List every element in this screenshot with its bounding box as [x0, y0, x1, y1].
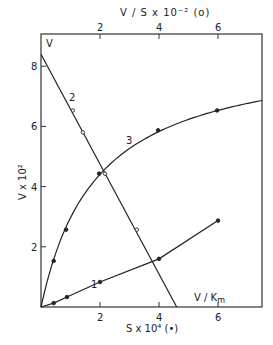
data-point-1 — [98, 280, 102, 284]
y-tick-label: 8 — [31, 61, 37, 72]
v-intercept-label: V — [46, 38, 53, 49]
data-point-3 — [97, 172, 101, 176]
curve-1 — [41, 221, 218, 307]
plot-frame — [41, 34, 262, 307]
data-point-1 — [65, 295, 69, 299]
y-tick-label: 2 — [31, 242, 37, 253]
y-axis-title: V x 10² — [17, 164, 28, 200]
data-point-2 — [135, 228, 138, 231]
y-tick-label: 6 — [31, 121, 37, 132]
curve-2 — [41, 54, 177, 307]
curve-3 — [41, 101, 262, 308]
curve-1-label: 1 — [91, 279, 97, 290]
data-point-3 — [215, 109, 219, 113]
data-point-1 — [52, 301, 56, 305]
top-axis-title: V / S x 10⁻² (o) — [120, 7, 210, 18]
top-tick-label: 4 — [156, 22, 162, 33]
x-tick-label: 2 — [97, 312, 103, 323]
kinetics-chart: 2462462468 V / S x 10⁻² (o) S x 10⁴ (•) … — [0, 0, 273, 345]
data-point-1 — [157, 257, 161, 261]
top-tick-label: 2 — [97, 22, 103, 33]
curve-3-label: 3 — [126, 135, 132, 146]
axis-ticks: 2462462468 — [31, 22, 221, 323]
data-point-1 — [216, 219, 220, 223]
vkm-intercept-label: V / Km — [194, 292, 225, 305]
data-point-2 — [71, 109, 74, 112]
y-tick-label: 4 — [31, 182, 37, 193]
data-point-2 — [103, 172, 106, 175]
x-tick-label: 6 — [215, 312, 221, 323]
top-tick-label: 6 — [215, 22, 221, 33]
data-point-3 — [52, 259, 56, 263]
bottom-axis-title: S x 10⁴ (•) — [126, 323, 178, 334]
curve-2-label: 2 — [69, 92, 75, 103]
data-point-3 — [64, 228, 68, 232]
x-tick-label: 4 — [156, 312, 162, 323]
data-point-3 — [156, 129, 160, 133]
data-point-2 — [81, 131, 84, 134]
